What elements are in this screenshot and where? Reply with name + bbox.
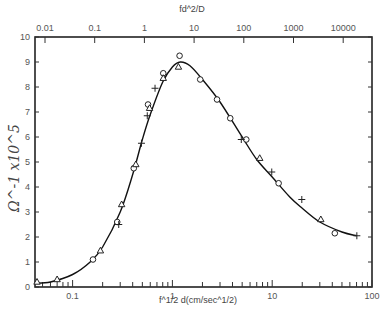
plot-frame — [35, 37, 372, 287]
x-axis-title-top: fd^2/D — [179, 4, 205, 14]
y-tick-label: 5 — [25, 157, 30, 167]
plot-border — [35, 37, 372, 287]
y-tick-label: 9 — [25, 57, 30, 67]
x-tick-label-top: 100 — [236, 23, 251, 33]
plus-marker — [238, 136, 245, 143]
y-tick-label: 2 — [25, 232, 30, 242]
x-axis-title-bottom: f^1/2 d(cm/sec^1/2) — [159, 295, 237, 305]
y-tick-label: 4 — [25, 182, 30, 192]
x-tick-label-bottom: 0.1 — [66, 291, 79, 301]
circle-marker — [197, 77, 203, 83]
axis-ticks — [35, 37, 372, 287]
y-tick-label: 1 — [25, 257, 30, 267]
x-tick-label-bottom: 100 — [364, 291, 379, 301]
circle-marker — [90, 257, 96, 263]
fit-line — [35, 62, 357, 283]
y-tick-label: 3 — [25, 207, 30, 217]
x-tick-label-bottom: 10 — [267, 291, 277, 301]
circle-marker — [276, 180, 282, 186]
x-tick-label-top: 10 — [189, 23, 199, 33]
triangle-marker — [257, 155, 263, 161]
y-tick-label: 8 — [25, 82, 30, 92]
plus-marker — [353, 232, 360, 239]
x-tick-label-top: 1 — [142, 23, 147, 33]
x-tick-label-top: 1000 — [283, 23, 303, 33]
y-tick-label: 7 — [25, 107, 30, 117]
y-tick-label: 10 — [20, 32, 30, 42]
triangle-marker — [318, 216, 324, 222]
y-tick-label: 0 — [25, 282, 30, 292]
x-tick-label-top: 10000 — [331, 23, 356, 33]
tick-labels: 0123456789100.11101000.010.1110100100010… — [20, 23, 380, 301]
plus-marker — [152, 85, 159, 92]
plus-marker — [138, 140, 145, 147]
circle-marker — [177, 53, 183, 59]
y-tick-label: 6 — [25, 132, 30, 142]
circle-marker — [227, 115, 233, 121]
y-axis-title: Ω^-1 x10^5 — [6, 124, 22, 213]
plus-marker — [298, 196, 305, 203]
triangle-marker — [133, 161, 139, 167]
circle-marker — [214, 97, 220, 103]
x-tick-label-top: 0.01 — [36, 23, 54, 33]
circle-marker — [332, 230, 338, 236]
data-points — [34, 53, 361, 284]
chart: 0123456789100.11101000.010.1110100100010… — [0, 0, 387, 319]
x-tick-label-top: 0.1 — [88, 23, 101, 33]
triangle-marker — [54, 276, 60, 282]
fitted-curve — [35, 62, 357, 283]
